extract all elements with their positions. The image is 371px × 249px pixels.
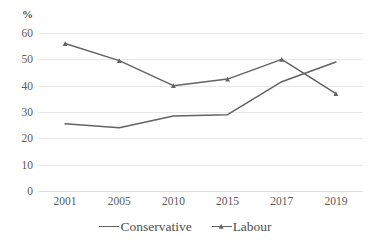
y-axis: 0102030405060 [0,33,33,191]
gridline [38,191,363,192]
y-axis-unit-label: % [22,8,33,20]
plot-area [38,33,363,191]
legend-item[interactable]: Conservative [99,219,191,234]
series-layer [38,33,363,191]
legend-line-triangle-icon [212,221,232,233]
x-axis-tick-label: 2015 [203,195,253,208]
legend-item[interactable]: Labour [212,219,272,234]
y-axis-tick-label: 20 [3,133,33,144]
x-axis-tick-label: 2017 [257,195,307,208]
legend-label: Conservative [120,219,191,234]
legend-label: Labour [233,219,272,234]
line-chart: % 0102030405060 200120052010201520172019… [0,0,371,249]
x-axis-tick-label: 2005 [94,195,144,208]
series-line-labour [65,44,336,94]
y-axis-tick-label: 10 [3,160,33,171]
x-axis-tick-label: 2019 [311,195,361,208]
y-axis-tick-label: 40 [3,81,33,92]
x-axis: 200120052010201520172019 [38,195,363,213]
legend-line-icon [99,221,119,233]
x-axis-tick-label: 2001 [40,195,90,208]
chart-legend: ConservativeLabour [0,219,371,234]
x-axis-tick-label: 2010 [148,195,198,208]
y-axis-tick-label: 30 [3,107,33,118]
y-axis-tick-label: 60 [3,28,33,39]
series-line-conservative [65,62,336,128]
y-axis-tick-label: 50 [3,54,33,65]
y-axis-tick-label: 0 [3,186,33,197]
